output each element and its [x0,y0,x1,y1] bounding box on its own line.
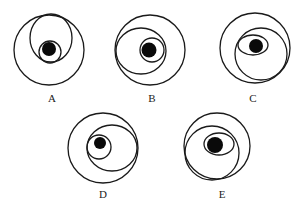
option-label: A [48,92,56,104]
option-label: C [249,92,256,104]
option-label: B [148,92,155,104]
option-figure-e: E [184,113,250,200]
black-dot [142,43,157,58]
option-figure-b: B [115,15,185,104]
figure-canvas: ABCDE [0,0,303,211]
option-label: E [219,188,226,200]
black-dot [42,42,56,56]
middle-ellipse [116,28,166,74]
option-label: D [99,188,107,200]
black-dot [207,137,223,153]
black-dot [94,137,106,149]
middle-ellipse [87,125,137,171]
option-figure-c: C [220,13,290,104]
option-figure-a: A [14,14,84,104]
option-figure-d: D [68,113,138,200]
black-dot [249,39,263,53]
